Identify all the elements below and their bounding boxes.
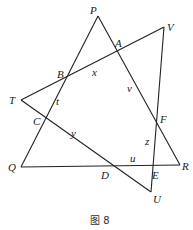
label-B: B <box>57 68 64 80</box>
label-A: A <box>114 37 122 49</box>
segment-label-y: y <box>70 127 76 139</box>
segment-label-t: t <box>56 95 60 107</box>
label-T: T <box>9 94 16 106</box>
segment-TV <box>21 27 164 100</box>
label-P: P <box>89 4 97 16</box>
label-V: V <box>167 21 175 33</box>
segment-label-z: z <box>144 135 150 147</box>
label-F: F <box>159 113 167 125</box>
segment-label-v: v <box>127 82 132 94</box>
segment-VU <box>151 27 164 192</box>
label-E: E <box>151 169 159 181</box>
label-U: U <box>153 193 162 205</box>
figure-caption: 图 8 <box>90 215 110 226</box>
geometry-diagram: P V A B T C F Q D E R U x v t y z u 图 8 <box>0 0 193 230</box>
segment-PQ <box>21 16 98 167</box>
segment-label-x: x <box>91 66 97 78</box>
segment-PR <box>98 16 180 165</box>
label-C: C <box>33 115 41 127</box>
label-R: R <box>181 160 189 172</box>
label-Q: Q <box>8 161 16 173</box>
label-D: D <box>100 169 109 181</box>
segment-TU <box>21 100 151 192</box>
segment-QR <box>21 165 180 167</box>
segment-label-u: u <box>130 152 136 164</box>
